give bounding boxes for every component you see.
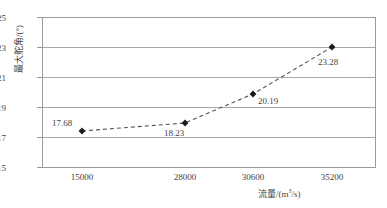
point-label-15000: 17.68 — [52, 118, 72, 128]
x-tick-label-30600: 30600 — [223, 172, 283, 182]
plot-area — [42, 17, 376, 168]
x-tick-label-15000: 15000 — [52, 172, 112, 182]
gridline-23 — [43, 47, 375, 48]
x-axis-title: 流量/(m3/s) — [258, 189, 301, 199]
point-label-28000: 18.23 — [164, 128, 184, 138]
x-axis-title-tail: /s) — [292, 189, 301, 199]
y-tick-label-15: 15 — [0, 164, 6, 173]
x-tick-label-35200: 35200 — [302, 172, 362, 182]
y-tick-label-21: 21 — [0, 74, 6, 83]
gridline-21 — [43, 77, 375, 78]
y-axis-title: 最大舵角/(°) — [14, 0, 24, 104]
y-tick-label-25: 25 — [0, 14, 6, 23]
gridline-17 — [43, 137, 375, 138]
chart-container: 最大舵角/(°) 25 23 21 19 17 15 17.68 18.23 2… — [0, 0, 387, 208]
point-label-35200: 23.28 — [318, 57, 338, 67]
x-tick-label-28000: 28000 — [155, 172, 215, 182]
point-label-30600: 20.19 — [258, 96, 278, 106]
y-tick-label-19: 19 — [0, 104, 6, 113]
x-axis-title-main: 流量/(m — [258, 189, 289, 199]
gridline-19 — [43, 107, 375, 108]
y-tick-label-17: 17 — [0, 134, 6, 143]
y-tick-label-23: 23 — [0, 44, 6, 53]
